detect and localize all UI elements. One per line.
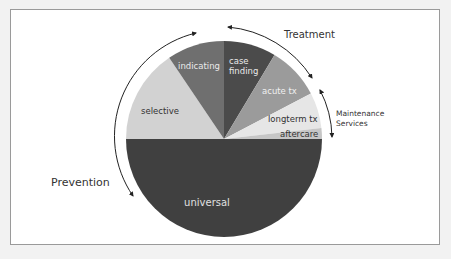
label-longterm-tx: longterm tx: [268, 114, 318, 124]
label-aftercare: aftercare: [280, 129, 318, 139]
label-acute-tx: acute tx: [262, 86, 297, 96]
label-case-finding-line1: case: [229, 56, 249, 66]
pie-diagram: universal selective indicating case find…: [0, 0, 451, 259]
label-selective: selective: [141, 106, 179, 116]
label-treatment: Treatment: [283, 29, 335, 40]
maintenance-arrow: [320, 90, 332, 137]
label-maintenance-line2: Services: [336, 119, 368, 128]
label-indicating: indicating: [178, 61, 220, 71]
slice-universal: [126, 139, 322, 237]
label-case-finding-line2: finding: [229, 66, 258, 76]
label-maintenance-line1: Maintenance: [336, 109, 385, 118]
label-universal: universal: [184, 197, 230, 208]
label-prevention: Prevention: [51, 176, 110, 189]
